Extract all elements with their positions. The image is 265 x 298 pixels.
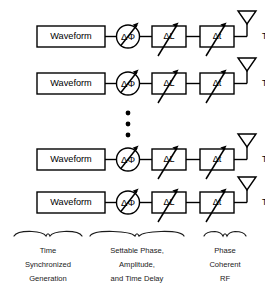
brace-settable-icon xyxy=(90,231,184,236)
caption-line: Generation xyxy=(29,274,67,283)
waveform-block-label: Waveform xyxy=(50,31,92,41)
ellipsis-dot xyxy=(126,122,131,127)
tx-port-label: Tx 7 xyxy=(262,155,265,164)
caption-line: Synchronized xyxy=(25,260,71,269)
tx-chain-row: Waveform ΔΦ ΔL Δt Tx 8 xyxy=(37,177,265,222)
caption-line: and Time Delay xyxy=(111,274,164,283)
antenna-icon xyxy=(238,134,256,147)
block-diagram-figure: Waveform ΔΦ ΔL Δt Tx 1 xyxy=(0,0,265,298)
antenna-icon xyxy=(238,11,256,24)
caption-settable: Settable Phase, Amplitude, and Time Dela… xyxy=(110,246,164,283)
caption-line: Coherent xyxy=(209,260,241,269)
waveform-block-label: Waveform xyxy=(50,154,92,164)
antenna-icon xyxy=(238,177,256,190)
tx-chain-row: Waveform ΔΦ ΔL Δt Tx 7 xyxy=(37,134,265,179)
brace-phase-coherent-icon xyxy=(204,232,246,237)
diagram-canvas: Waveform ΔΦ ΔL Δt Tx 1 xyxy=(0,0,265,298)
brace-time-sync-icon xyxy=(14,231,82,236)
vertical-ellipsis xyxy=(126,111,131,138)
caption-line: RF xyxy=(220,274,230,283)
tx-port-label: Tx 1 xyxy=(262,32,265,41)
caption-time-sync: Time Synchronized Generation xyxy=(25,246,71,283)
antenna-icon xyxy=(238,58,256,71)
caption-line: Settable Phase, xyxy=(110,246,164,255)
caption-line: Time xyxy=(40,246,57,255)
caption-line: Phase xyxy=(214,246,236,255)
caption-line: Amplitude, xyxy=(119,260,155,269)
tx-chain-row: Waveform ΔΦ ΔL Δt Tx 1 xyxy=(37,11,265,56)
tx-chain-row: Waveform ΔΦ ΔL Δt Tx 2 xyxy=(37,58,265,103)
ellipsis-dot xyxy=(126,133,131,138)
caption-phase-coherent: Phase Coherent RF xyxy=(209,246,241,283)
waveform-block-label: Waveform xyxy=(50,197,92,207)
tx-port-label: Tx 2 xyxy=(262,79,265,88)
tx-port-label: Tx 8 xyxy=(262,198,265,207)
waveform-block-label: Waveform xyxy=(50,78,92,88)
ellipsis-dot xyxy=(126,111,131,116)
